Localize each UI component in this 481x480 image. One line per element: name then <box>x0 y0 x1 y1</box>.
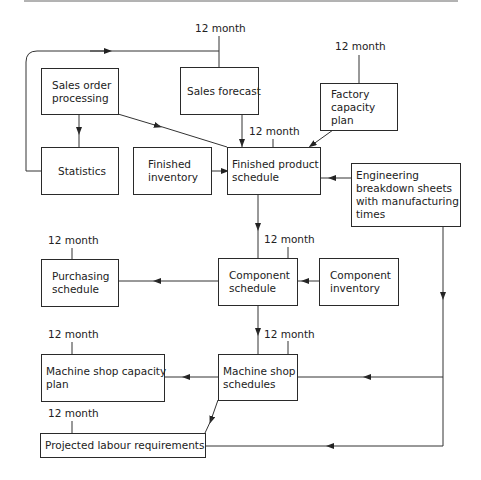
arrow-sales-order-to-finished-product <box>118 114 158 126</box>
box-text-line: Factory <box>331 88 397 101</box>
box-engineering-breakdown-sheets: Engineering breakdown sheets with manufa… <box>351 163 461 227</box>
box-finished-product-schedule: Finished product schedule <box>227 147 321 195</box>
box-text-line: Component <box>229 269 297 282</box>
horizon-label-labour: 12 month <box>48 407 99 419</box>
planning-flow-diagram: 12 month 12 month 12 month 12 month 12 m… <box>0 0 481 480</box>
box-text-line: breakdown sheets <box>356 182 460 195</box>
box-text-line: Purchasing <box>52 270 118 283</box>
horizon-label-finished-product: 12 month <box>249 125 300 137</box>
box-text-line: Component <box>330 269 398 282</box>
box-text-line: Engineering <box>356 169 460 182</box>
box-text-line: processing <box>52 92 118 105</box>
horizon-label-factory-capacity: 12 month <box>335 40 386 52</box>
horizon-label-sales-forecast: 12 month <box>195 22 246 34</box>
box-component-inventory: Component inventory <box>319 258 399 306</box>
horizon-label-purchasing: 12 month <box>48 234 99 246</box>
box-text-line: Machine shop <box>223 365 297 378</box>
box-text-line: plan <box>331 114 397 127</box>
box-factory-capacity-plan: Factory capacity plan <box>320 83 398 131</box>
box-text-line: times <box>356 208 460 221</box>
box-text-line: Statistics <box>58 165 118 178</box>
box-machine-shop-capacity-plan: Machine shop capacity plan <box>41 354 165 402</box>
box-text-line: Finished <box>148 158 211 171</box>
box-text-line: capacity <box>331 101 397 114</box>
box-text-line: with manufacturing <box>356 195 460 208</box>
arrow-factory-capacity-to-finished-product <box>312 130 333 145</box>
box-statistics: Statistics <box>41 147 119 195</box>
box-text-line: schedules <box>223 378 297 391</box>
box-text-line: schedule <box>229 282 297 295</box>
box-sales-order-processing: Sales order processing <box>41 68 119 115</box>
box-machine-shop-schedules: Machine shop schedules <box>218 354 298 401</box>
horizon-label-machine-capacity: 12 month <box>48 328 99 340</box>
box-projected-labour-requirements: Projected labour requirements <box>40 433 206 458</box>
box-component-schedule: Component schedule <box>218 258 298 306</box>
box-text-line: inventory <box>148 171 211 184</box>
arrow-machine-schedules-to-labour <box>211 400 218 420</box>
box-text-line: inventory <box>330 282 398 295</box>
box-text-line: Sales forecast <box>187 85 258 98</box>
box-text-line: Machine shop capacity <box>46 365 164 378</box>
box-text-line: plan <box>46 378 164 391</box>
box-finished-inventory: Finished inventory <box>133 147 212 195</box>
horizon-label-component: 12 month <box>264 233 315 245</box>
box-text-line: schedule <box>232 171 320 184</box>
box-text-line: schedule <box>52 283 118 296</box>
box-text-line: Sales order <box>52 79 118 92</box>
box-purchasing-schedule: Purchasing schedule <box>41 259 119 307</box>
box-text-line: Finished product <box>232 158 320 171</box>
horizon-label-machine-schedules: 12 month <box>264 328 315 340</box>
box-sales-forecast: Sales forecast <box>180 67 259 115</box>
box-text-line: Projected labour requirements <box>45 439 205 452</box>
